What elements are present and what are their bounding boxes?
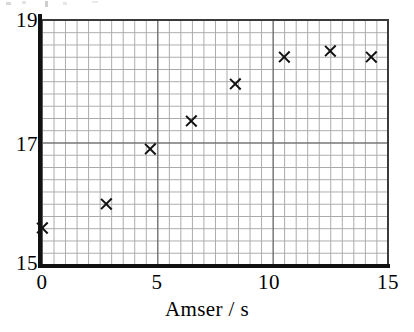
y-tick-label-17: 17 [16,134,38,155]
x-axis-label: Amser / s [0,297,414,321]
scatter-chart-figure: 19 17 15 0 5 10 15 Amser / s [0,0,414,332]
y-axis-line [38,14,42,268]
scan-artifact [6,2,11,5]
plot-border-right [387,19,389,266]
plot-grid [42,20,388,265]
x-tick-label-10: 10 [252,272,286,293]
x-tick-label-5: 5 [143,272,171,293]
y-tick-label-15: 15 [16,253,38,274]
x-axis-line [38,264,390,268]
x-tick-label-15: 15 [371,272,405,293]
scan-artifact [92,1,98,3]
x-tick-label-0: 0 [28,272,56,293]
scan-artifact [45,1,48,7]
scan-artifact [63,2,67,5]
y-tick-label-19: 19 [16,10,38,31]
scan-artifact [22,1,26,4]
plot-border-top [42,19,389,21]
